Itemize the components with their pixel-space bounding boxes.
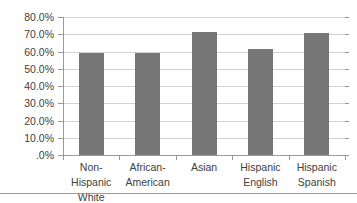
x-axis-category-label: Non-HispanicWhite [63, 160, 119, 194]
y-axis-tick [58, 138, 63, 139]
y-axis-tick [58, 121, 63, 122]
gridline-end-tick [345, 103, 349, 104]
y-axis-tick-label: 80.0% [0, 12, 54, 23]
gridline-end-tick [345, 86, 349, 87]
gridline-end-tick [345, 138, 349, 139]
bar [248, 49, 273, 155]
y-axis-tick-label: 70.0% [0, 29, 54, 40]
bar [79, 53, 104, 155]
x-axis-category-label-line2: American [120, 175, 174, 190]
bar-chart: Non-HispanicWhiteAfrican-AmericanAsianHi… [0, 0, 357, 203]
gridline-end-tick [345, 17, 349, 18]
y-axis-tick [58, 17, 63, 18]
x-axis-category-label-line2: English [233, 175, 287, 190]
gridline-end-tick [345, 121, 349, 122]
gridline [63, 17, 345, 18]
y-axis-tick-label: 30.0% [0, 98, 54, 109]
x-axis-category-label-line2: Spanish [290, 175, 344, 190]
x-axis-category-label-line2: White [64, 190, 118, 203]
x-axis-category-label-line1: Asian [191, 161, 217, 173]
gridline-end-tick [345, 52, 349, 53]
y-axis-tick [58, 52, 63, 53]
x-axis-category-label-line1: Hispanic [240, 161, 280, 173]
x-axis-category-label: Asian [176, 160, 232, 194]
y-axis-tick [58, 86, 63, 87]
y-axis-tick-label: 10.0% [0, 133, 54, 144]
x-axis-category-label-line1: Hispanic [297, 161, 337, 173]
y-axis-line [63, 17, 64, 156]
x-axis-category-label: HispanicEnglish [232, 160, 288, 194]
x-axis-category-label-line1: African- [130, 161, 166, 173]
x-axis-category-label: African-American [119, 160, 175, 194]
y-axis-tick [58, 69, 63, 70]
gridline-end-tick [345, 69, 349, 70]
y-axis-tick-label: 40.0% [0, 81, 54, 92]
x-axis-labels: Non-HispanicWhiteAfrican-AmericanAsianHi… [63, 160, 345, 194]
x-axis-category-label-line1: Non-Hispanic [71, 161, 111, 188]
gridline [63, 155, 345, 156]
bar [192, 32, 217, 155]
bottom-divider [0, 193, 357, 194]
gridline-end-tick [345, 34, 349, 35]
y-axis-tick-label: 60.0% [0, 46, 54, 57]
y-axis-tick-label: .0% [0, 150, 54, 161]
bar [304, 33, 329, 155]
y-axis-tick-label: 50.0% [0, 64, 54, 75]
bar [135, 53, 160, 155]
y-axis-tick-label: 20.0% [0, 115, 54, 126]
gridline-end-tick [345, 155, 349, 156]
y-axis-tick [58, 155, 63, 156]
y-axis-tick [58, 103, 63, 104]
x-axis-category-label: HispanicSpanish [289, 160, 345, 194]
y-axis-tick [58, 34, 63, 35]
